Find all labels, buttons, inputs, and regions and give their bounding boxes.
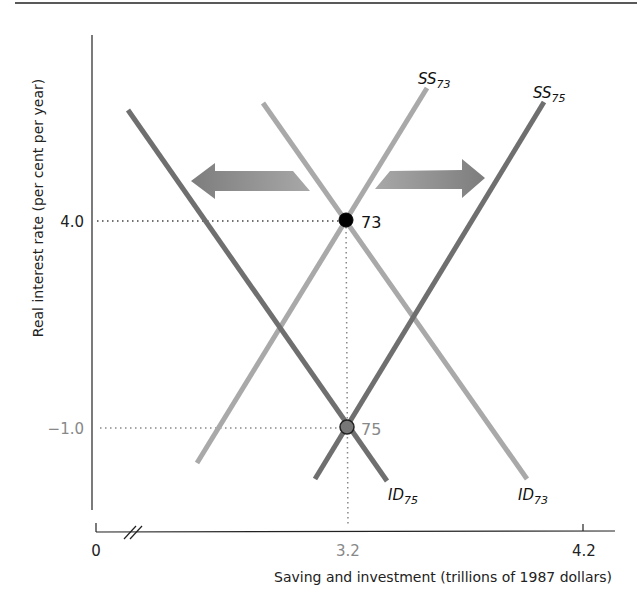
chart-canvas: 73 75 SS73 SS75 ID75 ID73 4.0 −1.0 0 3.2… [0, 0, 637, 609]
y-tick-neg1.0: −1.0 [48, 420, 84, 438]
svg-text:SS73: SS73 [418, 70, 451, 91]
ref-line-3.2 [346, 222, 348, 527]
x-axis [96, 531, 615, 532]
svg-text:ID73: ID73 [518, 486, 548, 507]
x-tick-3.2: 3.2 [336, 542, 360, 560]
svg-text:ID75: ID75 [388, 486, 418, 507]
x-tick-4.2-label: 4.2 [572, 542, 596, 560]
y-axis-title: Real interest rate (per cent per year) [30, 79, 46, 337]
point-75-label: 75 [361, 420, 381, 439]
curve-ss73 [197, 88, 427, 463]
y-tick-4.0: 4.0 [60, 213, 84, 231]
label-id75: ID75 [388, 486, 418, 507]
point-73-label: 73 [361, 213, 381, 232]
arrow-right-icon [375, 159, 485, 198]
point-73 [339, 213, 353, 227]
label-ss75: SS75 [533, 84, 566, 105]
svg-text:SS75: SS75 [533, 84, 566, 105]
x-axis-title: Saving and investment (trillions of 1987… [274, 569, 612, 585]
label-ss73: SS73 [418, 70, 451, 91]
point-75 [340, 420, 354, 434]
label-id73: ID73 [518, 486, 548, 507]
x-tick-0: 0 [91, 542, 101, 560]
arrow-left-icon [191, 163, 310, 199]
